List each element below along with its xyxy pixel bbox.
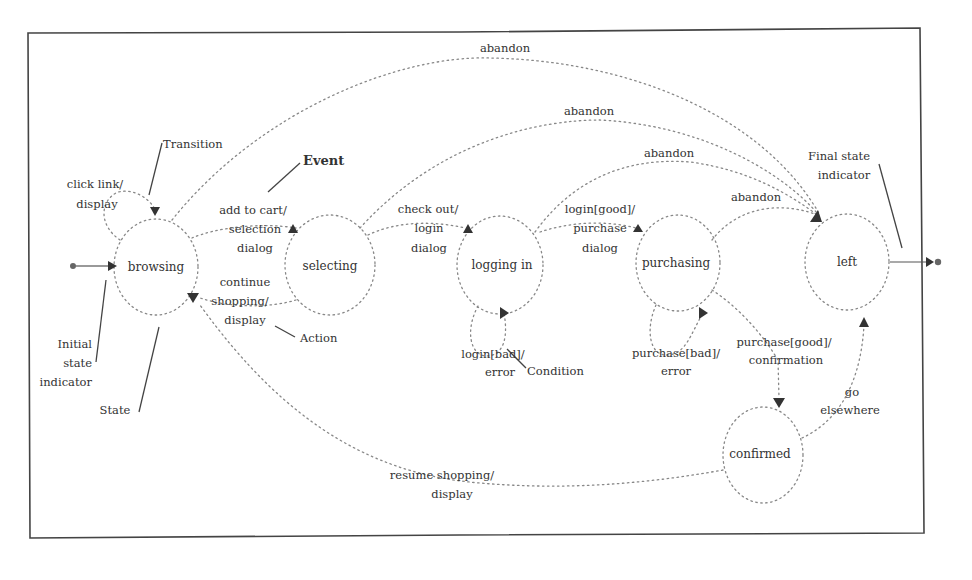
pointer-event — [268, 163, 300, 192]
label-check-out-1: check out/ — [398, 202, 459, 216]
initial-arrowhead-icon — [108, 261, 117, 271]
label-login-bad-2: error — [485, 365, 516, 379]
purchase-bad-arrowhead-icon — [699, 307, 708, 319]
transition-resume-shopping — [200, 305, 723, 486]
annotation-state: State — [100, 403, 131, 417]
label-add-to-cart-2: selection — [229, 222, 282, 236]
transition-abandon-4 — [712, 208, 815, 240]
label-go-elsewhere-2: elsewhere — [820, 403, 880, 417]
final-arrowhead-icon — [926, 257, 934, 267]
label-check-out-3: dialog — [411, 241, 447, 255]
label-login-good-1: login[good]/ — [565, 202, 636, 216]
label-purchase-good-2: confirmation — [749, 353, 824, 367]
label-continue-shopping-3: display — [224, 313, 266, 327]
label-resume-shopping-2: display — [431, 487, 473, 501]
label-go-elsewhere-1: go — [845, 385, 859, 399]
go-elsewhere-arrowhead-icon — [859, 317, 869, 327]
label-continue-shopping-1: continue — [220, 275, 271, 289]
state-label-selecting: selecting — [303, 259, 358, 273]
initial-state-dot — [70, 263, 76, 269]
final-state-dot — [935, 259, 941, 265]
pointer-state — [139, 327, 159, 412]
state-label-left: left — [837, 255, 857, 269]
state-label-confirmed: confirmed — [729, 447, 791, 461]
annotation-final-state-2: indicator — [818, 168, 871, 182]
pointer-transition — [149, 143, 162, 195]
label-abandon-3: abandon — [644, 146, 695, 160]
state-diagram: browsing selecting logging in purchasing… — [0, 0, 972, 580]
annotation-initial-state-2: state — [63, 356, 92, 370]
annotation-action: Action — [299, 331, 338, 345]
label-click-link-1: click link/ — [67, 177, 124, 191]
annotation-initial-state-1: Initial — [58, 337, 93, 351]
label-purchase-bad-1: purchase[bad]/ — [632, 346, 720, 360]
label-click-link-2: display — [76, 197, 118, 211]
annotation-condition: Condition — [527, 364, 584, 378]
label-add-to-cart-3: dialog — [237, 241, 273, 255]
login-bad-arrowhead-icon — [500, 307, 509, 319]
annotation-event: Event — [303, 153, 344, 168]
state-label-browsing: browsing — [128, 260, 185, 274]
continue-shopping-arrowhead-icon — [187, 293, 199, 303]
label-add-to-cart-1: add to cart/ — [219, 203, 287, 217]
label-resume-shopping-1: resume shopping/ — [390, 468, 494, 482]
label-abandon-2: abandon — [564, 104, 615, 118]
label-login-bad-1: login[bad]/ — [461, 347, 525, 361]
label-abandon-4: abandon — [731, 190, 782, 204]
state-label-logging-in: logging in — [471, 258, 532, 272]
click-link-arrowhead-icon — [150, 207, 160, 216]
transition-abandon-1 — [172, 58, 820, 220]
pointer-initial-state — [96, 280, 106, 362]
diagram-frame — [28, 28, 924, 538]
purchase-good-arrowhead-icon — [773, 398, 785, 408]
label-purchase-bad-2: error — [661, 364, 692, 378]
label-purchase-good-1: purchase[good]/ — [736, 335, 831, 349]
pointer-action — [275, 326, 295, 337]
annotation-final-state-1: Final state — [808, 149, 870, 163]
label-login-good-3: dialog — [582, 241, 618, 255]
label-continue-shopping-2: shopping/ — [211, 294, 268, 308]
label-login-good-2: purchase — [573, 221, 627, 235]
state-label-purchasing: purchasing — [642, 256, 710, 270]
add-to-cart-arrowhead-icon — [288, 224, 298, 233]
annotation-initial-state-3: indicator — [40, 375, 93, 389]
label-check-out-2: login — [414, 221, 444, 235]
annotation-transition: Transition — [163, 137, 223, 151]
label-abandon-1: abandon — [480, 41, 531, 55]
